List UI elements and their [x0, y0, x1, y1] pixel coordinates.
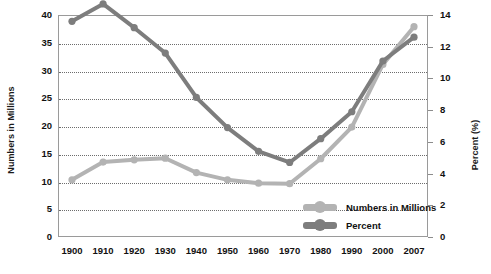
- data-point: [193, 169, 200, 176]
- data-point: [255, 180, 262, 187]
- data-point: [348, 108, 355, 115]
- data-point: [348, 124, 355, 131]
- data-point: [224, 176, 231, 183]
- legend-item: Numbers in Millions: [303, 198, 436, 216]
- legend-item: Percent: [303, 216, 436, 234]
- data-point: [317, 155, 324, 162]
- data-point: [99, 0, 106, 7]
- legend-swatch-icon: [303, 204, 337, 211]
- data-point: [193, 94, 200, 101]
- data-point: [410, 23, 417, 30]
- data-point: [286, 180, 293, 187]
- data-point: [410, 34, 417, 41]
- legend-swatch-icon: [303, 222, 337, 229]
- data-point: [131, 156, 138, 163]
- series-line: [72, 27, 414, 184]
- series-line: [72, 4, 414, 163]
- data-point: [317, 135, 324, 142]
- data-point: [131, 24, 138, 31]
- data-point: [162, 49, 169, 56]
- legend-label: Numbers in Millions: [346, 202, 436, 213]
- data-point: [99, 158, 106, 165]
- data-point: [286, 159, 293, 166]
- legend-label: Percent: [346, 220, 381, 231]
- data-point: [68, 176, 75, 183]
- data-point: [379, 57, 386, 64]
- chart-container: Numbers in Millions Percent (%) 05101520…: [0, 0, 491, 274]
- data-point: [162, 155, 169, 162]
- data-point: [68, 18, 75, 25]
- chart-legend: Numbers in MillionsPercent: [303, 198, 436, 234]
- data-point: [255, 148, 262, 155]
- data-point: [224, 124, 231, 131]
